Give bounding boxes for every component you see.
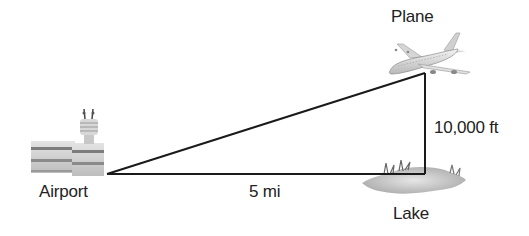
hypotenuse-line xyxy=(107,73,425,174)
height-label: 10,000 ft xyxy=(434,118,498,138)
lake-icon xyxy=(362,160,466,194)
airport-building-icon xyxy=(31,109,104,176)
right-triangle xyxy=(107,73,425,174)
airplane-icon xyxy=(389,33,470,74)
airport-label: Airport xyxy=(39,182,88,202)
plane-label: Plane xyxy=(391,7,433,27)
distance-label: 5 mi xyxy=(249,182,280,202)
lake-label: Lake xyxy=(393,204,429,224)
